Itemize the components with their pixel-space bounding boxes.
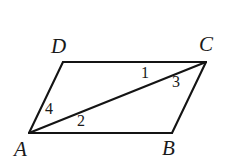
angle-label-3: 3 xyxy=(172,74,180,90)
parallelogram-drawing xyxy=(0,0,227,168)
vertex-label-D: D xyxy=(51,36,66,57)
angle-label-2: 2 xyxy=(77,113,85,129)
vertex-label-A: A xyxy=(14,139,27,160)
vertex-label-B: B xyxy=(162,138,175,159)
angle-label-4: 4 xyxy=(45,101,53,117)
angle-label-1: 1 xyxy=(141,65,149,81)
geometry-figure: D C A B 1 3 4 2 xyxy=(0,0,227,168)
vertex-label-C: C xyxy=(199,34,213,55)
